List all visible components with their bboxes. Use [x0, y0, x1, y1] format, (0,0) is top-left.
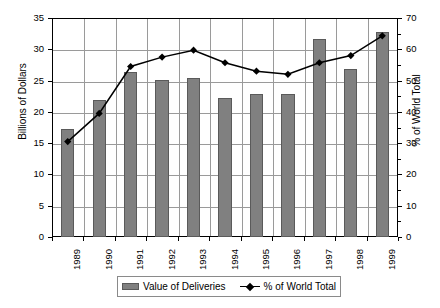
x-tick-label-1997: 1997 — [324, 249, 334, 270]
x-tick-label-1992: 1992 — [167, 249, 177, 270]
y-tick-label-right-40: 40 — [406, 107, 417, 117]
y-tick-mark-right-70 — [398, 18, 402, 19]
bar-swatch-icon — [122, 283, 139, 290]
y-tick-label-left-25: 25 — [33, 76, 44, 86]
y-minor-tick-right-45 — [398, 96, 401, 97]
data-point-1992 — [158, 54, 165, 61]
y-minor-tick-right-5 — [398, 221, 401, 222]
y-tick-mark-left-5 — [48, 206, 52, 207]
y-tick-mark-right-60 — [398, 49, 402, 50]
legend-label-value-of-deliveries: Value of Deliveries — [143, 281, 226, 292]
y-tick-label-left-30: 30 — [33, 44, 44, 54]
data-point-1993 — [190, 47, 197, 54]
x-tick-mark — [146, 237, 147, 241]
y-tick-mark-left-20 — [48, 112, 52, 113]
line-path-percent-of-world-total — [68, 36, 383, 142]
x-tick-label-1989: 1989 — [72, 249, 82, 270]
x-tick-mark — [367, 237, 368, 241]
y-minor-tick-right-35 — [398, 128, 401, 129]
y-tick-label-left-10: 10 — [33, 169, 44, 179]
y-tick-mark-right-50 — [398, 81, 402, 82]
chart-legend: Value of Deliveries % of World Total — [117, 276, 341, 297]
line-series-layer — [52, 18, 398, 237]
y-tick-mark-left-25 — [48, 81, 52, 82]
y-minor-tick-right-65 — [398, 34, 401, 35]
y-tick-label-left-0: 0 — [39, 232, 44, 242]
y-tick-label-left-20: 20 — [33, 107, 44, 117]
x-tick-mark — [241, 237, 242, 241]
y-tick-label-right-50: 50 — [406, 76, 417, 86]
legend-item-value-of-deliveries: Value of Deliveries — [122, 281, 226, 292]
x-tick-mark — [115, 237, 116, 241]
legend-label-percent-of-world-total: % of World Total — [264, 281, 336, 292]
y-tick-label-left-5: 5 — [39, 201, 44, 211]
data-point-1999 — [379, 32, 386, 39]
y-tick-mark-right-20 — [398, 174, 402, 175]
y-minor-tick-right-25 — [398, 159, 401, 160]
data-point-1994 — [221, 59, 228, 66]
data-point-1996 — [284, 71, 291, 78]
x-tick-label-1999: 1999 — [387, 249, 397, 270]
data-point-1995 — [253, 68, 260, 75]
y-tick-label-right-60: 60 — [406, 44, 417, 54]
y-tick-mark-left-10 — [48, 174, 52, 175]
y-tick-label-right-70: 70 — [406, 13, 417, 23]
x-tick-mark — [335, 237, 336, 241]
x-tick-mark — [398, 237, 399, 241]
x-tick-label-1993: 1993 — [198, 249, 208, 270]
x-tick-mark — [178, 237, 179, 241]
y-tick-mark-right-30 — [398, 143, 402, 144]
line-marker-swatch-icon — [240, 283, 260, 291]
data-point-1997 — [316, 59, 323, 66]
x-tick-label-1994: 1994 — [230, 249, 240, 270]
x-tick-mark — [209, 237, 210, 241]
x-tick-label-1995: 1995 — [261, 249, 271, 270]
y-minor-tick-right-15 — [398, 190, 401, 191]
y-tick-label-right-20: 20 — [406, 169, 417, 179]
y-tick-mark-left-15 — [48, 143, 52, 144]
x-tick-mark — [52, 237, 53, 241]
y-tick-mark-left-35 — [48, 18, 52, 19]
y-tick-mark-right-10 — [398, 206, 402, 207]
x-tick-mark — [304, 237, 305, 241]
x-tick-label-1998: 1998 — [355, 249, 365, 270]
x-tick-label-1991: 1991 — [135, 249, 145, 270]
chart-container: Billions of Dollars % of World Total 051… — [0, 0, 440, 308]
y-minor-tick-right-55 — [398, 65, 401, 66]
y-axis-title-left: Billions of Dollars — [17, 42, 28, 162]
x-tick-label-1996: 1996 — [292, 249, 302, 270]
y-tick-label-left-35: 35 — [33, 13, 44, 23]
legend-item-percent-of-world-total: % of World Total — [240, 281, 336, 292]
y-tick-label-left-15: 15 — [33, 138, 44, 148]
y-tick-label-right-30: 30 — [406, 138, 417, 148]
y-tick-mark-right-40 — [398, 112, 402, 113]
y-tick-mark-left-30 — [48, 49, 52, 50]
data-point-1998 — [347, 52, 354, 59]
y-tick-label-right-0: 0 — [406, 232, 411, 242]
y-tick-label-right-10: 10 — [406, 201, 417, 211]
x-tick-mark — [272, 237, 273, 241]
x-tick-mark — [83, 237, 84, 241]
x-tick-label-1990: 1990 — [104, 249, 114, 270]
